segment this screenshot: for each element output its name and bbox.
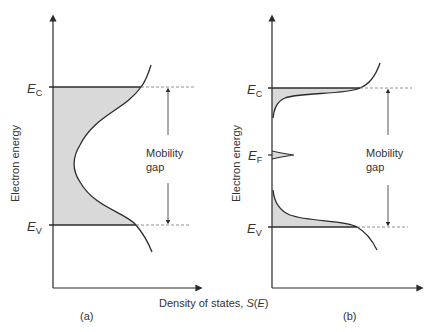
panel-b-conduction-tail-shaded: [272, 88, 360, 118]
panel-a: EC EV Electron energy Mobility gap (a): [9, 18, 199, 322]
panel-a-ec-label: EC: [27, 81, 43, 98]
panel-b-valence-tail-shaded: [272, 190, 357, 227]
panel-a-shaded-states: [53, 87, 141, 225]
panel-b: EC EF EV Electron energy Mobility gap (b…: [230, 18, 420, 322]
panel-b-caption: (b): [343, 310, 356, 322]
density-of-states-diagram: EC EV Electron energy Mobility gap (a): [0, 0, 433, 332]
panel-b-ef-label: EF: [248, 148, 263, 165]
panel-b-ec-label: EC: [247, 82, 263, 99]
panel-a-caption: (a): [80, 310, 93, 322]
panel-b-ev-label: EV: [247, 221, 262, 238]
panel-b-y-axis-label: Electron energy: [230, 124, 242, 202]
panel-b-gap-label-line1: Mobility: [366, 147, 404, 159]
panel-a-gap-label-line2: gap: [146, 161, 164, 173]
x-axis-label: Density of states, S(E): [159, 297, 268, 309]
panel-a-gap-label-line1: Mobility: [146, 147, 184, 159]
panel-a-ev-label: EV: [27, 219, 42, 236]
panel-a-y-axis-label: Electron energy: [9, 124, 21, 202]
panel-b-gap-label-line2: gap: [366, 161, 384, 173]
